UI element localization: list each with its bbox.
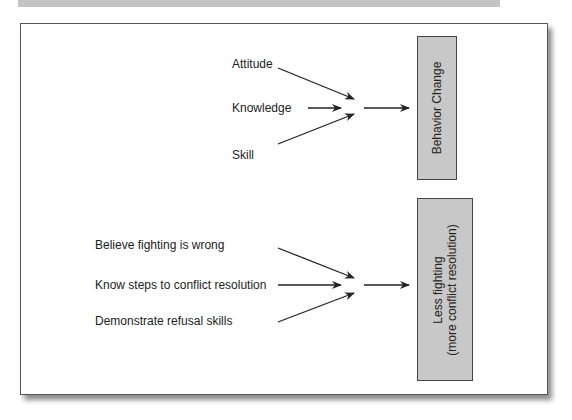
input-skill: Skill [232,148,254,162]
input-attitude: Attitude [232,57,273,71]
input-believe-fighting-wrong: Believe fighting is wrong [95,238,224,252]
arrow-attitude [278,68,354,99]
arrows-layer [0,0,572,420]
input-demonstrate-refusal: Demonstrate refusal skills [95,314,232,328]
outcome-line-1: Less fighting [431,224,445,355]
arrow-believe [278,248,354,278]
arrow-skill [278,114,354,144]
outcome-less-fighting: Less fighting (more conflict resolution) [431,224,459,355]
outcome-line-2: (more conflict resolution) [445,224,459,355]
input-knowledge: Knowledge [232,101,291,115]
outcome-box-less-fighting: Less fighting (more conflict resolution) [417,198,473,381]
outcome-behavior-change: Behavior Change [430,62,444,155]
arrow-demonstrate [278,293,354,322]
outcome-box-behavior-change: Behavior Change [417,36,457,180]
input-know-steps: Know steps to conflict resolution [95,278,266,292]
